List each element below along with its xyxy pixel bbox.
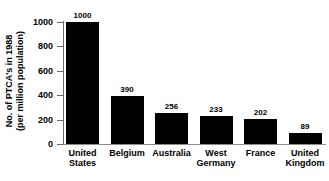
bar-value-label-1: 390 xyxy=(111,85,144,94)
category-label-1: Belgium xyxy=(104,148,151,158)
bar-value-label-4: 202 xyxy=(244,108,277,117)
bar-value-label-5: 89 xyxy=(289,122,322,131)
y-axis-title-line-1: No. of PTCA's in 1988 xyxy=(4,31,15,131)
bar-2 xyxy=(155,113,188,144)
category-label-0: UnitedStates xyxy=(59,148,106,168)
bar-4 xyxy=(244,119,277,144)
y-tick-label-400: 400 xyxy=(38,91,53,100)
y-tick-label-800: 800 xyxy=(38,42,53,51)
bar-0 xyxy=(66,22,99,144)
bar-5 xyxy=(289,133,322,144)
y-tick-label-1000: 1000 xyxy=(33,18,53,27)
category-label-4: France xyxy=(237,148,284,158)
y-tick-label-200: 200 xyxy=(38,116,53,125)
y-tick-label-600: 600 xyxy=(38,67,53,76)
y-axis-title: No. of PTCA's in 1988 (per million popul… xyxy=(0,18,30,144)
category-label-2: Australia xyxy=(148,148,195,158)
bar-value-label-2: 256 xyxy=(155,102,188,111)
bar-value-label-0: 1000 xyxy=(66,11,99,20)
y-tick-0 xyxy=(57,144,63,145)
category-label-3: WestGermany xyxy=(193,148,240,168)
x-axis-line xyxy=(63,144,326,145)
bar-3 xyxy=(200,116,233,144)
category-label-5: UnitedKingdom xyxy=(282,148,329,168)
bar-value-label-3: 233 xyxy=(200,105,233,114)
ptca-bar-chart: No. of PTCA's in 1988 (per million popul… xyxy=(0,0,329,181)
y-axis-title-line-2: (per million population) xyxy=(15,31,26,131)
bar-1 xyxy=(111,96,144,144)
plot-area xyxy=(63,22,326,144)
y-tick-label-0: 0 xyxy=(48,140,53,149)
